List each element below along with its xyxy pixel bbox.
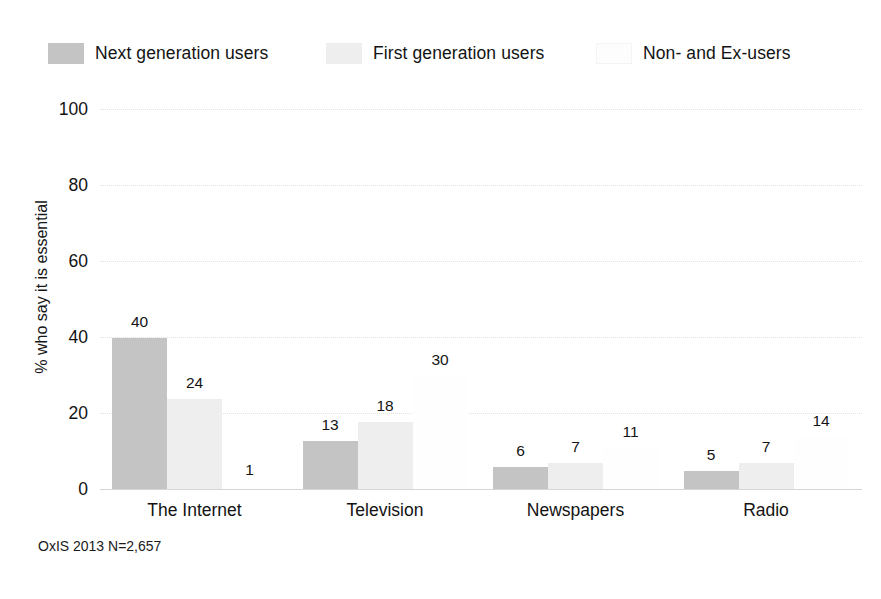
bar[interactable] (794, 437, 849, 490)
bar[interactable] (684, 471, 739, 490)
plot-area: 4024113183067115714 (100, 110, 862, 490)
bar[interactable] (493, 467, 548, 490)
x-axis-baseline (100, 489, 862, 490)
bar[interactable] (413, 376, 468, 490)
bar-group: 131830 (303, 110, 468, 490)
y-axis-tick-label: 60 (28, 251, 88, 272)
bar-value-label: 5 (707, 446, 716, 464)
bar-group: 5714 (684, 110, 849, 490)
x-axis-tick-labels: The InternetTelevisionNewspapersRadio (100, 500, 862, 534)
bar-value-label: 7 (571, 438, 580, 456)
bar-value-label: 6 (516, 442, 525, 460)
bar-value-label: 18 (376, 397, 393, 415)
bar[interactable] (303, 441, 358, 490)
y-axis-tick-label: 20 (28, 403, 88, 424)
bar-value-label: 30 (431, 351, 448, 369)
bar-value-label: 13 (321, 416, 338, 434)
y-axis-tick-label: 40 (28, 327, 88, 348)
bar[interactable] (167, 399, 222, 490)
bar[interactable] (603, 448, 658, 490)
y-axis-tick-label: 80 (28, 175, 88, 196)
bar[interactable] (739, 463, 794, 490)
x-axis-tick-label: Radio (743, 500, 789, 521)
x-axis-tick-label: Television (347, 500, 424, 521)
bar-group: 6711 (493, 110, 658, 490)
source-footnote: OxIS 2013 N=2,657 (38, 538, 161, 554)
bar[interactable] (358, 422, 413, 490)
x-axis-tick-label: Newspapers (527, 500, 624, 521)
y-axis-tick-label: 100 (28, 99, 88, 120)
x-axis-tick-label: The Internet (147, 500, 241, 521)
bar-value-label: 40 (131, 313, 148, 331)
bar-value-label: 1 (245, 461, 254, 479)
bar-group: 40241 (112, 110, 277, 490)
bar-value-label: 14 (812, 412, 829, 430)
bar-value-label: 11 (622, 423, 638, 441)
bar-chart: % who say it is essential 020406080100 4… (0, 0, 881, 599)
bar[interactable] (112, 338, 167, 490)
bar-value-label: 7 (762, 438, 771, 456)
bar-value-label: 24 (186, 374, 203, 392)
y-axis-tick-label: 0 (28, 479, 88, 500)
bar[interactable] (548, 463, 603, 490)
